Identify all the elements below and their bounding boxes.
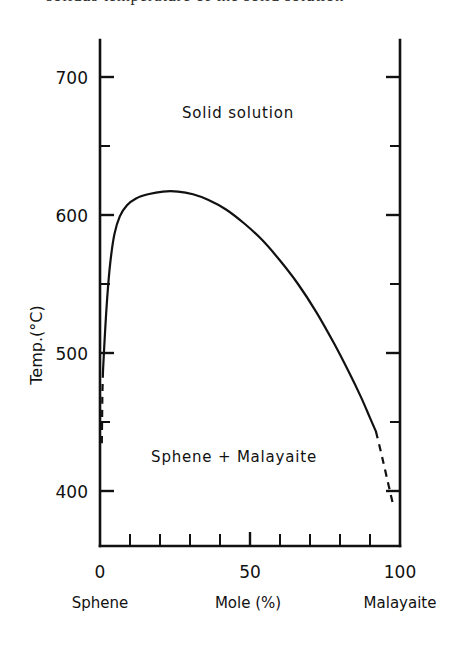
y-tick-label-400: 400 <box>56 482 88 502</box>
y-tick-labels: 700 600 500 400 <box>56 68 88 502</box>
phase-diagram-svg: 700 600 500 400 0 50 100 Temp.(°C) Sphen… <box>0 0 456 658</box>
x-end-label-right: Malayaite <box>364 594 437 612</box>
x-end-label-left: Sphene <box>72 594 129 612</box>
solvus-curve-dashed-left <box>102 371 103 444</box>
x-axis-ticks <box>130 532 370 546</box>
y-axis-ticks-right <box>386 77 400 491</box>
figure-canvas: solidus temperature of the solid solutio… <box>0 0 456 658</box>
x-tick-label-0: 0 <box>95 562 106 582</box>
y-tick-label-600: 600 <box>56 206 88 226</box>
annotation-solid-solution: Solid solution <box>182 104 294 122</box>
solvus-curve-solid <box>103 191 376 431</box>
x-tick-labels: 0 50 100 <box>95 562 417 582</box>
x-tick-label-100: 100 <box>384 562 416 582</box>
x-axis-title: Mole (%) <box>215 594 281 612</box>
x-tick-label-50: 50 <box>239 562 261 582</box>
y-tick-label-700: 700 <box>56 68 88 88</box>
y-tick-label-500: 500 <box>56 344 88 364</box>
annotation-two-phase: Sphene + Malayaite <box>151 448 317 466</box>
solvus-curve-dashed-right <box>376 432 393 504</box>
y-axis-title: Temp.(°C) <box>27 305 46 385</box>
